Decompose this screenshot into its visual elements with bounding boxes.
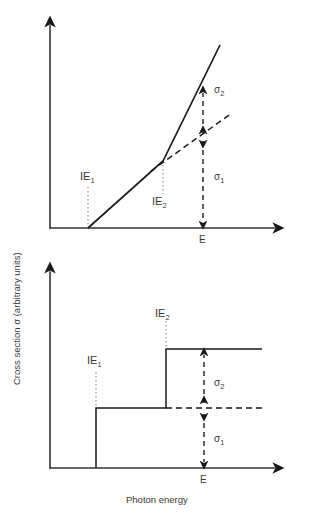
bottom-panel-ie2-label: IE2 — [155, 307, 170, 322]
bottom-panel-ie1-label: IE1 — [87, 354, 102, 369]
top-panel-sigma1-label-subscript: 1 — [220, 176, 224, 185]
bottom-panel-ie1-label-subscript: 1 — [97, 360, 101, 369]
top-panel-extrapolation-line — [151, 113, 232, 171]
bottom-panel-sigma2-label-subscript: 2 — [220, 382, 224, 391]
top-panel-x-tick-label-e: E — [199, 234, 206, 245]
figure-svg: Cross section σ (arbitrary units) IE1 — [0, 0, 311, 521]
figure-container: Cross section σ (arbitrary units) IE1 — [0, 0, 311, 521]
bottom-panel-ie1-label-text: IE — [87, 354, 97, 366]
bottom-panel-x-tick-label-e: E — [200, 474, 207, 485]
bottom-panel-sigma1-label: σ1 — [214, 433, 224, 447]
bottom-panel-sigma1-label-subscript: 1 — [220, 438, 224, 447]
bottom-panel-ie2-label-subscript: 2 — [165, 313, 169, 322]
top-panel-ie2-label: IE2 — [152, 195, 167, 210]
top-panel-ie1-label-text: IE — [80, 170, 90, 182]
y-axis-label: Cross section σ (arbitrary units) — [11, 252, 22, 385]
top-panel-sigma2-label: σ2 — [214, 84, 224, 98]
bottom-panel: IE1 IE2 σ2 σ1 E — [50, 272, 274, 485]
top-panel-sigma2-label-subscript: 2 — [220, 89, 224, 98]
top-panel-ie2-label-text: IE — [152, 195, 162, 207]
top-panel: IE1 IE2 σ2 σ1 E — [50, 26, 274, 245]
bottom-panel-ie2-label-text: IE — [155, 307, 165, 319]
top-panel-ie2-label-subscript: 2 — [162, 201, 166, 210]
top-panel-sigma1-label: σ1 — [214, 171, 224, 185]
bottom-panel-sigma2-label: σ2 — [214, 377, 224, 391]
top-panel-ie1-label-subscript: 1 — [90, 176, 94, 185]
x-axis-caption: Photon energy — [126, 494, 188, 505]
top-panel-ie1-label: IE1 — [80, 170, 95, 185]
